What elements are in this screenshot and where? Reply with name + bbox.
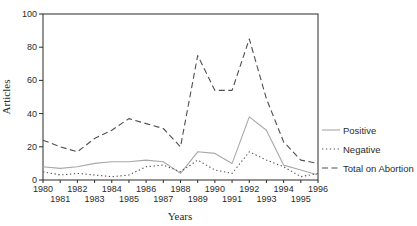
x-tick-label-1993: 1993 [256, 194, 276, 204]
x-tick-label-1996: 1996 [308, 184, 328, 194]
plot-border [43, 14, 318, 180]
y-tick-label-20: 20 [27, 142, 37, 152]
x-tick-label-1992: 1992 [239, 184, 259, 194]
y-tick-label-40: 40 [27, 109, 37, 119]
y-axis-title: Articles [0, 80, 12, 115]
line-chart-svg: Articles Years 0204060801001980198119821… [0, 0, 417, 226]
x-tick-label-1990: 1990 [205, 184, 225, 194]
x-tick-label-1982: 1982 [67, 184, 87, 194]
x-tick-label-1994: 1994 [274, 184, 294, 194]
legend-label-total-on-abortion: Total on Abortion [343, 163, 414, 174]
x-axis-title: Years [168, 210, 193, 222]
x-tick-label-1995: 1995 [291, 194, 311, 204]
x-tick-label-1984: 1984 [102, 184, 122, 194]
x-tick-label-1983: 1983 [85, 194, 105, 204]
legend-label-negative: Negative [343, 144, 381, 155]
x-tick-label-1986: 1986 [136, 184, 156, 194]
legend-label-positive: Positive [343, 125, 376, 136]
y-tick-label-100: 100 [22, 9, 37, 19]
y-tick-label-80: 80 [27, 42, 37, 52]
series-line-total-on-abortion [43, 39, 318, 163]
x-tick-label-1987: 1987 [153, 194, 173, 204]
x-tick-label-1981: 1981 [50, 194, 70, 204]
x-tick-label-1985: 1985 [119, 194, 139, 204]
y-tick-label-60: 60 [27, 75, 37, 85]
abortion-articles-figure: Articles Years 0204060801001980198119821… [0, 0, 417, 226]
x-tick-label-1980: 1980 [33, 184, 53, 194]
x-tick-label-1988: 1988 [170, 184, 190, 194]
x-tick-label-1989: 1989 [188, 194, 208, 204]
x-tick-label-1991: 1991 [222, 194, 242, 204]
series-line-positive [43, 117, 318, 175]
